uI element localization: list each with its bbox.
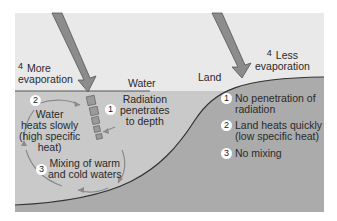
land-item-1: 1 No penetration ofradiation	[221, 93, 316, 115]
number-badge: 4	[18, 61, 23, 72]
number-badge: 3	[36, 164, 47, 175]
water-land-heating-diagram: Water Land 4More evaporation Radiation p…	[0, 0, 337, 221]
number-badge: 3	[221, 148, 232, 159]
water-radiation-number: 1	[105, 104, 119, 115]
number-badge: 1	[221, 93, 232, 104]
number-badge: 2	[30, 95, 41, 106]
water-evaporation-label: 4More evaporation	[18, 63, 73, 85]
water-radiation-label: Radiation penetrates to depth	[120, 94, 170, 127]
water-heating-label: Water heats slowly (high specific heat)	[19, 109, 80, 153]
land-item-3: 3 No mixing	[221, 148, 282, 159]
number-badge: 1	[105, 104, 116, 115]
water-mixing-label: Mixing of warm and cold waters	[48, 158, 122, 180]
number-badge: 2	[221, 120, 232, 131]
land-item-2: 2 Land heats quickly(low specific heat)	[221, 120, 322, 142]
water-heating-number: 2	[30, 95, 44, 106]
land-evaporation-label: 4Less evaporation	[255, 50, 310, 72]
region-label-water: Water	[128, 78, 156, 89]
region-label-land: Land	[198, 72, 221, 83]
number-badge: 4	[267, 48, 272, 59]
